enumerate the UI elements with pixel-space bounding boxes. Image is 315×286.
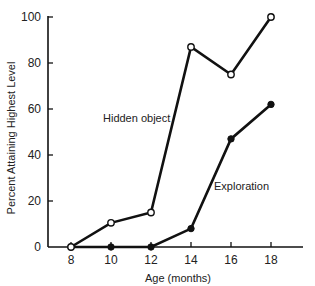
y-tick-label: 0 [34,240,41,254]
hidden-object-line [71,17,271,247]
exploration-marker [188,225,194,231]
exploration-marker [268,101,274,107]
y-tick-label: 80 [28,56,42,70]
axes [48,16,303,247]
y-tick-label: 20 [28,194,42,208]
x-tick-label: 18 [264,253,278,267]
exploration-marker [108,244,114,250]
y-tick-label: 40 [28,148,42,162]
labels-group: 02040608010081012141618Age (months)Perce… [5,10,278,284]
x-tick-label: 12 [144,253,158,267]
x-tick-label: 16 [224,253,238,267]
x-tick-label: 14 [184,253,198,267]
y-tick-label: 100 [21,10,41,24]
hidden-object-marker [268,14,274,20]
y-axis-title: Percent Attaining Highest Level [5,62,17,215]
y-tick-label: 60 [28,102,42,116]
exploration-marker [148,244,154,250]
hidden-object-marker [148,209,154,215]
hidden-object-marker [108,220,114,226]
hidden-object-marker [228,71,234,77]
x-tick-label: 10 [104,253,118,267]
x-axis-title: Age (months) [145,272,211,284]
hidden-object-label: Hidden object [103,112,170,124]
hidden-object-marker [68,244,74,250]
x-tick-label: 8 [68,253,75,267]
hidden-object-marker [188,44,194,50]
line-chart: 02040608010081012141618Age (months)Perce… [0,0,315,286]
exploration-label: Exploration [214,180,269,192]
series-group [68,14,274,250]
exploration-marker [228,136,234,142]
